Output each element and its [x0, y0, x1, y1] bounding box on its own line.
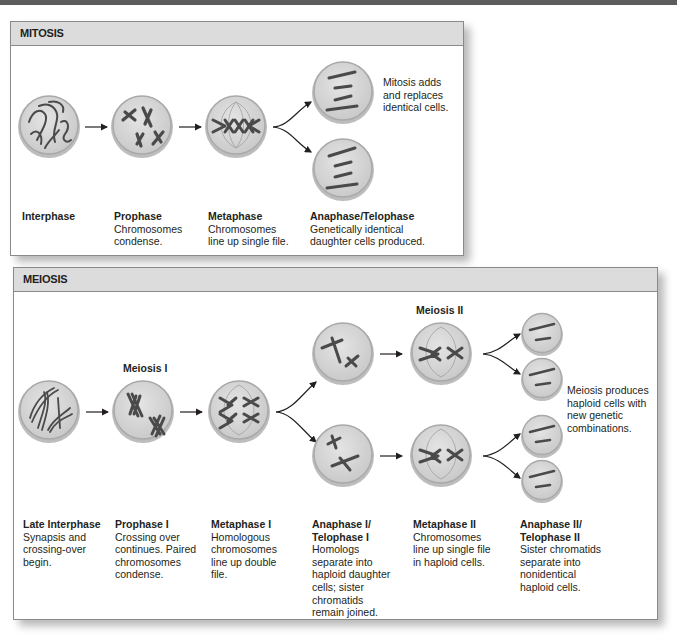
stage-metaphase-ii: Metaphase II Chromosomes line up single … [413, 518, 497, 568]
stage-desc: Synapsis and crossing-over begin. [23, 531, 105, 569]
stage-metaphase: Metaphase Chromosomes line up single fil… [208, 210, 293, 248]
stage-prophase-i: Prophase I Crossing over continues. Pair… [115, 518, 199, 581]
prophase-cell [111, 96, 173, 158]
stage-desc: Homologs separate into haploid daughter … [312, 543, 394, 619]
stage-desc: Sister chromatids separate into nonident… [520, 543, 608, 593]
stage-desc: Chromosomes condense. [114, 223, 189, 248]
stage-desc: Chromosomes line up single file. [208, 223, 293, 248]
stage-desc: Crossing over continues. Paired chromoso… [115, 531, 199, 581]
stage-desc: Genetically identical daughter cells pro… [310, 223, 430, 248]
daughter-cell-top [312, 62, 374, 124]
stage-title: Prophase [114, 210, 189, 223]
stage-title: Prophase I [115, 518, 199, 531]
stage-title: Late Interphase [23, 518, 105, 531]
stage-desc: Homologous chromosomes line up double fi… [211, 531, 287, 581]
metaphase-i-cell [208, 381, 270, 443]
metaphase-ii-cell-bottom [410, 425, 472, 487]
stage-title: Anaphase I/ Telophase I [312, 518, 394, 543]
metaphase-cell [205, 96, 267, 158]
top-bar [0, 0, 677, 5]
meiosis-note: Meiosis produces haploid cells with new … [567, 384, 655, 434]
stage-title: Metaphase II [413, 518, 497, 531]
haploid-cell-1 [521, 314, 563, 357]
haploid-cell-2 [521, 359, 563, 402]
metaphase-ii-cell-top [410, 323, 472, 385]
interphase-cell [18, 96, 80, 158]
anaphase-i-cell-bottom [312, 425, 374, 487]
stage-title: Metaphase [208, 210, 293, 223]
anaphase-i-cell-top [312, 323, 374, 385]
stage-title: Anaphase II/ Telophase II [520, 518, 608, 543]
mitosis-note: Mitosis adds and replaces identical cell… [383, 76, 461, 114]
late-interphase-cell [18, 381, 80, 443]
prophase-i-cell [112, 381, 174, 443]
stage-desc: Chromosomes line up single file in haplo… [413, 531, 497, 569]
stage-interphase: Interphase [22, 210, 102, 223]
stage-title: Metaphase I [211, 518, 287, 531]
meiosis-panel: MEIOSIS Meiosis I Meiosis II [13, 267, 658, 620]
stage-metaphase-i: Metaphase I Homologous chromosomes line … [211, 518, 287, 581]
stage-late-interphase: Late Interphase Synapsis and crossing-ov… [23, 518, 105, 568]
stage-anaphase-telophase: Anaphase/Telophase Genetically identical… [310, 210, 430, 248]
mitosis-panel: MITOSIS [10, 21, 464, 256]
stage-title: Interphase [22, 210, 102, 223]
stage-title: Anaphase/Telophase [310, 210, 430, 223]
daughter-cell-bottom [312, 139, 374, 201]
haploid-cell-3 [521, 416, 563, 459]
haploid-cell-4 [521, 461, 563, 504]
stage-anaphase-i-telophase-i: Anaphase I/ Telophase I Homologs separat… [312, 518, 394, 619]
stage-anaphase-ii-telophase-ii: Anaphase II/ Telophase II Sister chromat… [520, 518, 608, 594]
stage-prophase: Prophase Chromosomes condense. [114, 210, 189, 248]
